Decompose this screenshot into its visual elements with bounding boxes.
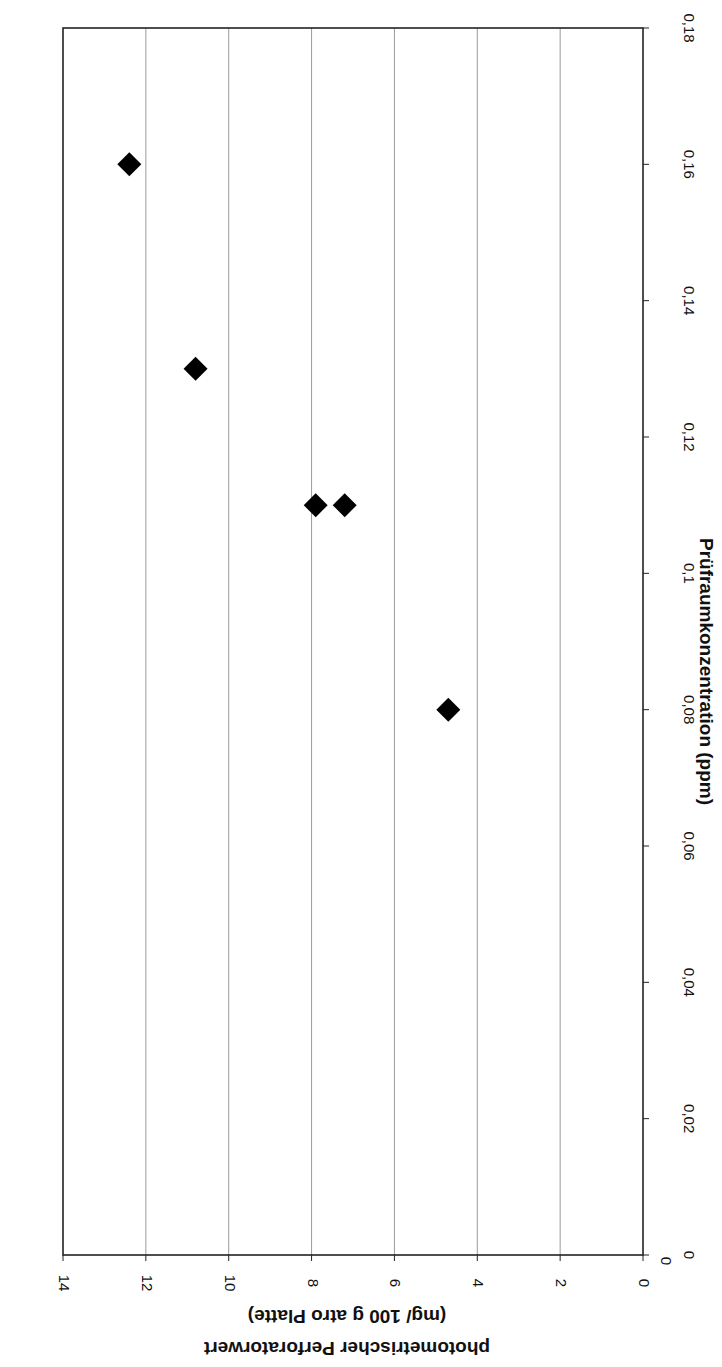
data-point-diamond <box>436 698 460 722</box>
data-point-diamond <box>117 152 141 176</box>
x-tick-label: 0,12 <box>681 422 698 451</box>
y-tick-label: 4 <box>470 1279 487 1287</box>
origin-label: 0 <box>658 1257 675 1265</box>
y-tick-label: 6 <box>387 1279 404 1287</box>
chart-page: 0246810121400,020,040,060,080,10,120,140… <box>0 0 722 1367</box>
x-tick-label: 0,14 <box>681 286 698 315</box>
scatter-chart: 0246810121400,020,040,060,080,10,120,140… <box>0 0 722 1367</box>
y-axis-title-line1: photometrischer Perforatorwert <box>203 1338 490 1359</box>
x-tick-label: 0,16 <box>681 150 698 179</box>
data-point-diamond <box>333 493 357 517</box>
x-tick-label: 0 <box>681 1251 698 1259</box>
y-tick-label: 8 <box>305 1279 322 1287</box>
x-tick-label: 0,1 <box>681 563 698 584</box>
x-tick-label: 0,08 <box>681 695 698 724</box>
x-tick-label: 0,18 <box>681 13 698 42</box>
x-tick-label: 0,06 <box>681 831 698 860</box>
data-point-diamond <box>184 357 208 381</box>
y-tick-label: 10 <box>222 1275 239 1292</box>
data-point-diamond <box>304 493 328 517</box>
y-axis-title-line2: (mg/ 100 g atro Platte) <box>248 1306 447 1327</box>
y-tick-label: 0 <box>636 1279 653 1287</box>
x-tick-label: 0,04 <box>681 968 698 997</box>
y-tick-label: 14 <box>56 1275 73 1292</box>
x-axis-title: Prüfraumkonzentration (ppm) <box>696 538 717 805</box>
plot-frame <box>63 28 643 1255</box>
y-tick-label: 2 <box>553 1279 570 1287</box>
y-tick-label: 12 <box>139 1275 156 1292</box>
x-tick-label: 0,02 <box>681 1104 698 1133</box>
